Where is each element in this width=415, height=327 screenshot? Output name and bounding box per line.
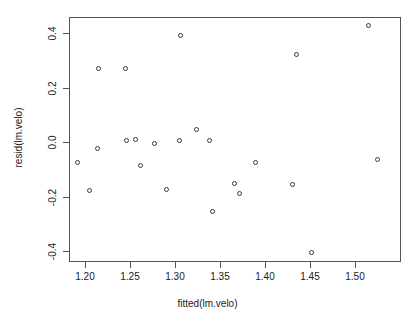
- x-tick-mark: [220, 262, 221, 268]
- x-tick-mark: [130, 262, 131, 268]
- data-point: [210, 209, 215, 214]
- data-point: [309, 250, 314, 255]
- x-tick-mark: [355, 262, 356, 268]
- y-tick-label: -0.4: [47, 235, 58, 269]
- x-axis-label: fitted(lm.velo): [0, 298, 415, 309]
- data-point: [124, 138, 129, 143]
- data-point: [232, 181, 237, 186]
- y-tick-label: 0.0: [47, 126, 58, 160]
- y-tick-mark: [63, 251, 69, 252]
- x-tick-label: 1.45: [290, 271, 330, 282]
- plot-frame: [69, 17, 401, 262]
- x-tick-mark: [310, 262, 311, 268]
- data-point: [366, 23, 371, 28]
- data-point: [375, 157, 380, 162]
- y-tick-mark: [63, 142, 69, 143]
- data-point: [207, 138, 212, 143]
- y-axis-label: resid(lm.velo): [13, 83, 24, 193]
- y-tick-mark: [63, 33, 69, 34]
- x-tick-label: 1.40: [245, 271, 285, 282]
- data-point: [133, 137, 138, 142]
- data-point: [178, 33, 183, 38]
- data-point: [164, 187, 169, 192]
- data-point: [96, 66, 101, 71]
- x-tick-label: 1.50: [335, 271, 375, 282]
- data-point: [253, 160, 258, 165]
- x-tick-label: 1.30: [155, 271, 195, 282]
- data-point: [123, 66, 128, 71]
- data-point: [290, 182, 295, 187]
- data-point: [294, 52, 299, 57]
- data-point: [177, 138, 182, 143]
- x-tick-label: 1.35: [200, 271, 240, 282]
- y-tick-label: 0.2: [47, 71, 58, 105]
- data-point: [138, 163, 143, 168]
- data-point: [194, 127, 199, 132]
- y-tick-label: 0.4: [47, 17, 58, 51]
- x-tick-mark: [85, 262, 86, 268]
- y-tick-mark: [63, 197, 69, 198]
- data-point: [75, 160, 80, 165]
- y-tick-mark: [63, 88, 69, 89]
- x-tick-mark: [265, 262, 266, 268]
- x-tick-mark: [175, 262, 176, 268]
- data-point: [95, 146, 100, 151]
- y-tick-label: -0.2: [47, 180, 58, 214]
- data-point: [87, 188, 92, 193]
- x-tick-label: 1.25: [110, 271, 150, 282]
- scatter-plot-figure: 1.201.251.301.351.401.451.50 -0.4-0.20.0…: [0, 0, 415, 327]
- data-point: [152, 141, 157, 146]
- data-point: [237, 191, 242, 196]
- x-tick-label: 1.20: [65, 271, 105, 282]
